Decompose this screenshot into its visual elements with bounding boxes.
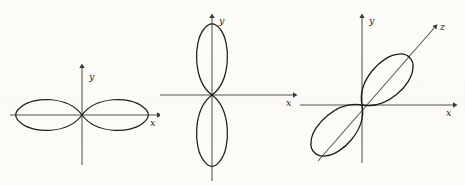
x-axis-label: x	[286, 97, 292, 108]
figure-sheet: y x y x	[0, 0, 465, 185]
y-axis-label: y	[88, 71, 95, 82]
x-axis-label: x	[150, 117, 156, 128]
figure-vertical-lobes: y x	[160, 0, 300, 185]
z-axis-label: z	[439, 21, 446, 32]
lobe-upper-right-group	[350, 45, 422, 117]
y-axis-label: y	[368, 15, 375, 26]
figure-horizontal-lobes-canvas: y x	[0, 0, 160, 185]
figure-diagonal-lobes-canvas: y x z	[300, 0, 465, 185]
lobe-lower-left-curve	[302, 93, 374, 165]
lobe-upper-right-curve	[350, 45, 422, 117]
x-axis-label: x	[446, 107, 452, 118]
lobe-lower-left-group	[302, 93, 374, 165]
figure-vertical-lobes-canvas: y x	[160, 0, 300, 185]
figure-horizontal-lobes: y x	[0, 0, 160, 185]
y-axis-label: y	[218, 15, 225, 26]
z-axis-line	[318, 27, 435, 161]
figure-diagonal-lobes: y x z	[300, 0, 465, 185]
